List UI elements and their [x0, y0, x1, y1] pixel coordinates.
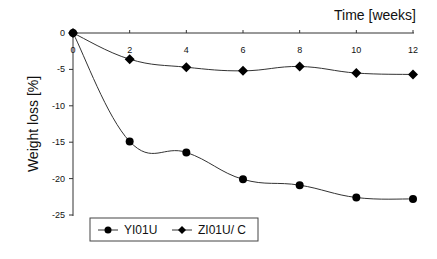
circle-marker-icon: [182, 148, 190, 156]
x-tick-label: 10: [351, 45, 361, 55]
x-tick-label: 12: [408, 45, 418, 55]
y-tick-label: -10: [52, 101, 65, 111]
diamond-marker-icon: [295, 61, 305, 71]
diamond-marker-icon: [351, 68, 361, 78]
y-tick-label: -5: [57, 64, 65, 74]
diamond-marker-icon: [125, 54, 135, 64]
y-tick-label: -20: [52, 174, 65, 184]
line-chart: Time [weeks] Weight loss [%] 024681012 0…: [0, 0, 437, 259]
y-axis-ticks: 0-5-10-15-20-25: [52, 28, 73, 220]
legend-label: YI01U: [124, 223, 157, 237]
x-tick-label: 0: [70, 45, 75, 55]
circle-marker-icon: [409, 195, 417, 203]
diamond-marker-icon: [408, 69, 418, 79]
y-axis-title: Weight loss [%]: [25, 76, 41, 172]
series-markers-yi01u: [69, 29, 417, 203]
circle-marker-icon: [105, 227, 112, 234]
circle-marker-icon: [239, 175, 247, 183]
legend-label: ZI01U/ C: [198, 223, 246, 237]
x-axis-ticks: 024681012: [70, 30, 418, 55]
x-tick-label: 8: [297, 45, 302, 55]
circle-marker-icon: [126, 137, 134, 145]
circle-marker-icon: [352, 194, 360, 202]
x-tick-label: 6: [240, 45, 245, 55]
x-axis-title: Time [weeks]: [334, 7, 416, 23]
y-tick-label: -25: [52, 210, 65, 220]
series-line-yi01u: [73, 33, 413, 199]
y-tick-label: -15: [52, 137, 65, 147]
diamond-marker-icon: [181, 62, 191, 72]
circle-marker-icon: [296, 181, 304, 189]
diamond-marker-icon: [68, 28, 78, 38]
x-tick-label: 2: [127, 45, 132, 55]
legend: YI01U ZI01U/ C: [90, 218, 258, 241]
diamond-marker-icon: [238, 66, 248, 76]
x-tick-label: 4: [184, 45, 189, 55]
y-tick-label: 0: [60, 28, 65, 38]
